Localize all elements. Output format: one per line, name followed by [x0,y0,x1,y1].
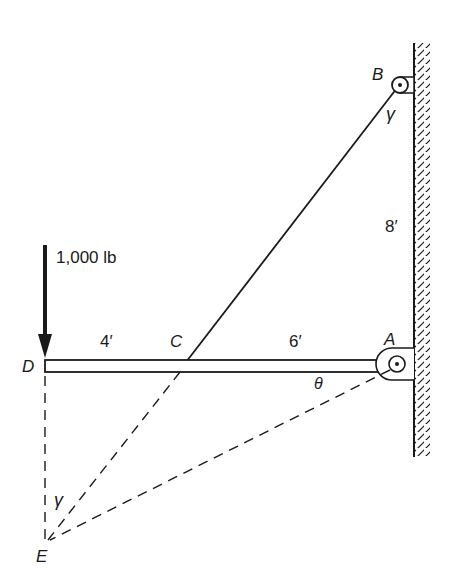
pin-support-a [376,348,414,380]
point-b-label: B [372,65,383,84]
angle-gamma-b-label: γ [386,104,396,124]
angle-gamma-e-label: γ [54,490,64,510]
point-e-label: E [36,547,48,566]
dim-dc-label: 4′ [100,332,113,351]
load-label: 1,000 lb [56,248,117,267]
wall [414,43,430,457]
dashed-line-ce [48,372,180,540]
point-c-label: C [170,332,183,351]
point-d-label: D [22,357,34,376]
angle-theta-label: θ [314,375,323,392]
load-arrow [38,245,52,358]
wall-hatching [414,43,430,457]
dim-ca-label: 6′ [289,332,302,351]
dashed-line-ae [50,370,390,540]
pin-support-b [392,77,414,93]
strut-cb [183,88,397,366]
construction-lines [45,370,390,540]
dim-ab-label: 8′ [385,217,398,236]
point-a-label: A [383,330,395,349]
beam-diagram: 1,000 lb 4′ 6′ 8′ D C A B E γ γ θ [0,0,459,578]
beam-da [45,360,397,372]
